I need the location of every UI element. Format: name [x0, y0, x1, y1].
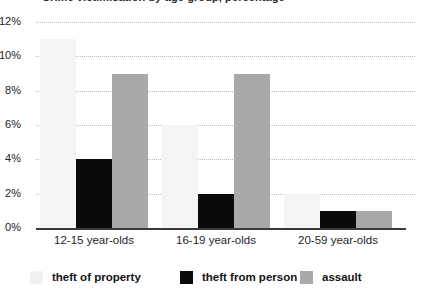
- bar: [40, 39, 76, 228]
- bar: [284, 194, 320, 228]
- x-axis-category-label: 20-59 year-olds: [268, 234, 408, 246]
- bar-group: [162, 22, 270, 228]
- y-axis-tick-label: 10%: [0, 49, 21, 61]
- x-axis-category-label: 16-19 year-olds: [146, 234, 286, 246]
- legend-item[interactable]: theft from person: [180, 268, 297, 286]
- y-axis-tick-label: 2%: [0, 187, 21, 199]
- x-axis-category-label: 12-15 year-olds: [24, 234, 164, 246]
- legend-item[interactable]: theft of property: [30, 268, 141, 286]
- bar: [76, 159, 112, 228]
- bar: [112, 74, 148, 229]
- bar: [234, 74, 270, 229]
- bar-group: [40, 22, 148, 228]
- legend-label: theft of property: [52, 271, 141, 283]
- chart-title: Crime victimisation by age group, percen…: [42, 0, 402, 5]
- y-axis-tick-label: 8%: [0, 84, 21, 96]
- legend-label: assault: [322, 271, 362, 283]
- legend-swatch-icon: [300, 271, 313, 284]
- legend-swatch-icon: [180, 271, 193, 284]
- bar: [198, 194, 234, 228]
- legend-item[interactable]: assault: [300, 268, 362, 286]
- bars-layer: [36, 22, 415, 228]
- bar-group: [284, 22, 392, 228]
- legend-label: theft from person: [202, 271, 297, 283]
- chart-legend: theft of propertytheft from personassaul…: [0, 268, 424, 290]
- y-axis-tick-label: 0%: [0, 221, 21, 233]
- legend-swatch-icon: [30, 271, 43, 284]
- bar: [162, 125, 198, 228]
- y-axis-tick-label: 6%: [0, 118, 21, 130]
- y-axis-tick-label: 4%: [0, 152, 21, 164]
- bar: [320, 211, 356, 228]
- axis-baseline: [36, 228, 406, 230]
- bar-chart: Crime victimisation by age group, percen…: [0, 0, 424, 297]
- bar: [356, 211, 392, 228]
- y-axis-tick-label: 12%: [0, 15, 21, 27]
